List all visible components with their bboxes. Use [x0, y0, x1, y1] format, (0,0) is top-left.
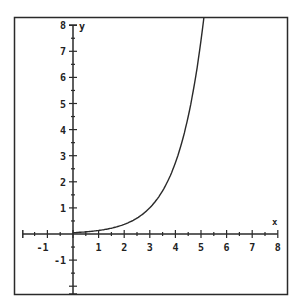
y-tick-label: 3 [60, 151, 66, 162]
y-tick-label: 2 [60, 177, 66, 188]
x-tick-label: 7 [249, 242, 255, 253]
x-tick-label: 4 [172, 242, 178, 253]
x-tick-label: 3 [147, 242, 153, 253]
y-tick-label: 6 [60, 72, 66, 83]
x-tick-label: 1 [96, 242, 102, 253]
x-tick-label: 6 [224, 242, 230, 253]
y-tick-label: 8 [60, 20, 66, 31]
x-tick-label: 5 [198, 242, 204, 253]
y-tick-label: 5 [60, 99, 66, 110]
y-axis-label: y [79, 21, 85, 32]
x-axis-label: x [272, 217, 278, 227]
x-tick-label: 8 [275, 242, 281, 253]
y-tick-label: -1 [54, 255, 66, 266]
y-tick-label: 4 [60, 125, 66, 136]
x-tick-label: -1 [36, 242, 48, 253]
y-tick-label: 1 [60, 203, 66, 214]
curve-line [73, 0, 207, 233]
plot-area: -112345678-112345678yx [0, 0, 303, 298]
y-tick-label: 7 [60, 46, 66, 57]
x-tick-label: 2 [121, 242, 127, 253]
